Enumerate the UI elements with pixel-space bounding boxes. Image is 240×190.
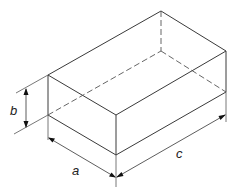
dimension-a: a: [48, 115, 116, 187]
visible-edges: [48, 11, 226, 155]
c-dimension-line: [117, 115, 225, 177]
c-arrow-left-icon: [116, 172, 124, 178]
box-diagram: b a c: [0, 0, 240, 190]
a-dimension-line: [49, 138, 115, 177]
dimension-b: b: [10, 75, 48, 134]
b-arrow-top-icon: [24, 88, 29, 95]
c-label: c: [176, 146, 183, 161]
b-label: b: [10, 103, 17, 118]
b-extension-bottom: [14, 115, 48, 134]
c-arrow-right-icon: [219, 115, 227, 121]
hidden-edges: [48, 11, 226, 115]
bottom-left-edge: [48, 115, 116, 155]
b-arrow-bottom-icon: [24, 121, 29, 128]
a-label: a: [72, 163, 79, 178]
b-extension-top: [16, 75, 48, 93]
hidden-left-edge: [48, 51, 161, 115]
a-arrow-right-icon: [109, 173, 116, 178]
a-arrow-left-icon: [48, 138, 55, 143]
